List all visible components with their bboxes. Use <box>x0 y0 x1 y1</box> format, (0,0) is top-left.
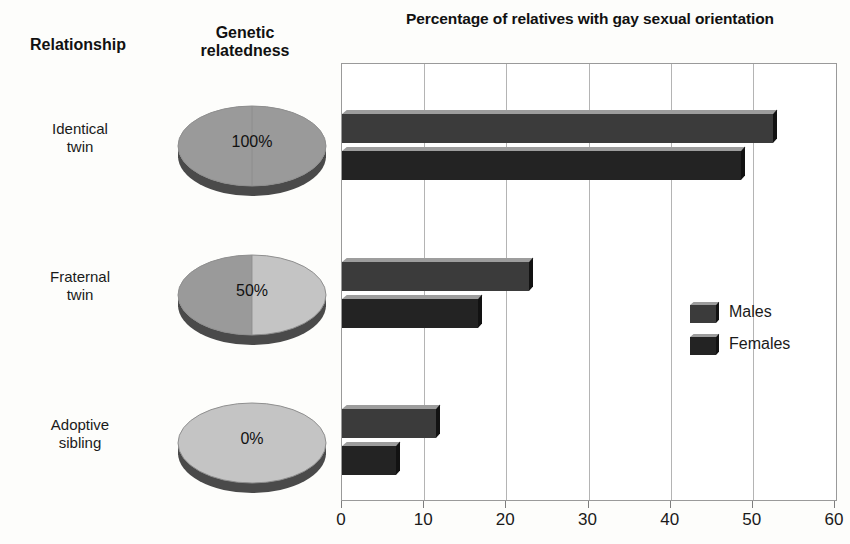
bar-females-adoptive-sibling <box>342 442 400 475</box>
x-axis-tick <box>752 501 753 508</box>
pie-top-face <box>178 403 326 483</box>
genetic-header-line-1: Genetic <box>216 24 275 41</box>
x-axis-tick-label: 10 <box>403 510 443 530</box>
legend-label-males: Males <box>729 303 772 321</box>
x-axis-tick-label: 60 <box>814 510 850 530</box>
pie-chart-adoptive-sibling: 0% <box>172 397 332 501</box>
pie-icon <box>172 397 332 501</box>
x-axis-tick-label: 40 <box>650 510 690 530</box>
bar-females-fraternal-twin <box>342 295 482 328</box>
x-axis-tick-label: 20 <box>485 510 525 530</box>
chart-legend: Males Females <box>690 296 790 360</box>
chart-title: Percentage of relatives with gay sexual … <box>340 10 840 28</box>
row-label-line-1: Adoptive <box>51 416 109 433</box>
legend-label-females: Females <box>729 335 790 353</box>
bar-females-identical-twin <box>342 147 745 180</box>
legend-swatch-females-icon <box>690 334 719 355</box>
x-axis-tick <box>423 501 424 508</box>
row-label-line-1: Fraternal <box>50 268 110 285</box>
bar-males-adoptive-sibling <box>342 405 440 438</box>
row-label-line-2: twin <box>67 286 94 303</box>
row-label-identical-twin: Identical twin <box>10 120 150 155</box>
x-axis-tick <box>670 501 671 508</box>
genetic-header-line-2: relatedness <box>201 42 290 59</box>
column-header-genetic-relatedness: Genetic relatedness <box>160 24 330 61</box>
column-header-relationship: Relationship <box>8 36 148 54</box>
x-axis-tick-label: 0 <box>321 510 361 530</box>
row-label-adoptive-sibling: Adoptive sibling <box>10 416 150 451</box>
pie-icon <box>172 100 332 204</box>
pie-top-face <box>178 255 326 335</box>
bar-males-fraternal-twin <box>342 258 533 291</box>
x-axis-tick-label: 50 <box>732 510 772 530</box>
pie-icon <box>172 249 332 353</box>
row-label-line-1: Identical <box>52 120 108 137</box>
legend-item-females: Females <box>690 328 790 360</box>
bar-males-identical-twin <box>342 110 777 143</box>
pie-top-face <box>178 106 326 186</box>
row-label-fraternal-twin: Fraternal twin <box>10 268 150 303</box>
row-label-line-2: sibling <box>59 434 102 451</box>
pie-chart-identical-twin: 100% <box>172 100 332 204</box>
legend-item-males: Males <box>690 296 790 328</box>
x-axis-tick <box>588 501 589 508</box>
x-axis-tick-label: 30 <box>568 510 608 530</box>
x-axis-tick <box>505 501 506 508</box>
chart-figure: Percentage of relatives with gay sexual … <box>0 0 850 544</box>
legend-swatch-males-icon <box>690 302 719 323</box>
x-axis-tick <box>834 501 835 508</box>
pie-chart-fraternal-twin: 50% <box>172 249 332 353</box>
row-label-line-2: twin <box>67 138 94 155</box>
x-axis-tick <box>341 501 342 508</box>
plot-area <box>341 63 837 501</box>
